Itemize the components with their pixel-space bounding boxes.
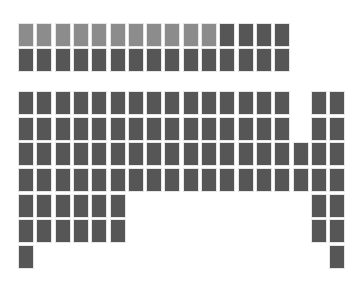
bottom-tile-dark bbox=[329, 168, 345, 192]
top-tile-light bbox=[110, 23, 126, 47]
bottom-tile-dark bbox=[238, 168, 254, 192]
bottom-tile-dark bbox=[164, 168, 180, 192]
bottom-tile-dark bbox=[164, 91, 180, 115]
top-tile-dark bbox=[91, 48, 107, 72]
bottom-tile-dark bbox=[311, 91, 327, 115]
bottom-tile-dark bbox=[311, 168, 327, 192]
bottom-tile-dark bbox=[73, 219, 89, 243]
bottom-tile-dark bbox=[311, 142, 327, 166]
bottom-tile-dark bbox=[110, 194, 126, 218]
bottom-tile-dark bbox=[256, 168, 272, 192]
bottom-tile-dark bbox=[219, 91, 235, 115]
bottom-tile-dark bbox=[55, 117, 71, 141]
top-tile-light bbox=[55, 23, 71, 47]
bottom-tile-dark bbox=[91, 117, 107, 141]
bottom-tile-dark bbox=[329, 219, 345, 243]
top-tile-dark bbox=[201, 48, 217, 72]
bottom-tile-dark bbox=[18, 219, 34, 243]
bottom-tile-dark bbox=[274, 117, 290, 141]
bottom-tile-dark bbox=[311, 117, 327, 141]
bottom-tile-dark bbox=[164, 142, 180, 166]
bottom-tile-dark bbox=[110, 219, 126, 243]
bottom-tile-dark bbox=[91, 142, 107, 166]
bottom-tile-dark bbox=[73, 142, 89, 166]
bottom-tile-dark bbox=[18, 142, 34, 166]
bottom-tile-dark bbox=[329, 194, 345, 218]
bottom-tile-dark bbox=[110, 91, 126, 115]
bottom-tile-dark bbox=[311, 194, 327, 218]
bottom-tile-dark bbox=[91, 219, 107, 243]
top-tile-light bbox=[91, 23, 107, 47]
bottom-tile-dark bbox=[201, 142, 217, 166]
bottom-tile-dark bbox=[256, 91, 272, 115]
top-tile-dark bbox=[73, 48, 89, 72]
bottom-tile-dark bbox=[183, 168, 199, 192]
bottom-tile-dark bbox=[128, 91, 144, 115]
bottom-tile-dark bbox=[73, 117, 89, 141]
bottom-tile-dark bbox=[293, 168, 309, 192]
bottom-tile-dark bbox=[110, 142, 126, 166]
bottom-tile-dark bbox=[238, 117, 254, 141]
top-tile-dark bbox=[238, 48, 254, 72]
bottom-tile-dark bbox=[55, 194, 71, 218]
bottom-tile-dark bbox=[18, 168, 34, 192]
bottom-tile-dark bbox=[274, 168, 290, 192]
bottom-tile-dark bbox=[146, 168, 162, 192]
bottom-tile-dark bbox=[55, 219, 71, 243]
bottom-tile-dark bbox=[73, 91, 89, 115]
bottom-tile-dark bbox=[18, 194, 34, 218]
bottom-tile-dark bbox=[18, 117, 34, 141]
top-tile-light bbox=[18, 23, 34, 47]
bottom-tile-dark bbox=[128, 168, 144, 192]
top-tile-dark bbox=[274, 23, 290, 47]
bottom-tile-dark bbox=[110, 168, 126, 192]
bottom-tile-dark bbox=[256, 117, 272, 141]
bottom-tile-dark bbox=[293, 142, 309, 166]
bottom-tile-dark bbox=[329, 91, 345, 115]
top-tile-dark bbox=[128, 48, 144, 72]
bottom-tile-dark bbox=[274, 142, 290, 166]
bottom-tile-dark bbox=[110, 117, 126, 141]
top-tile-dark bbox=[256, 48, 272, 72]
top-tile-dark bbox=[238, 23, 254, 47]
bottom-tile-dark bbox=[183, 91, 199, 115]
bottom-tile-dark bbox=[36, 194, 52, 218]
bottom-tile-dark bbox=[55, 142, 71, 166]
bottom-tile-dark bbox=[256, 142, 272, 166]
top-tile-light bbox=[164, 23, 180, 47]
bottom-tile-dark bbox=[36, 168, 52, 192]
top-tile-dark bbox=[219, 48, 235, 72]
top-tile-light bbox=[128, 23, 144, 47]
top-tile-light bbox=[201, 23, 217, 47]
top-tile-dark bbox=[55, 48, 71, 72]
bottom-tile-dark bbox=[274, 91, 290, 115]
bottom-tile-dark bbox=[238, 91, 254, 115]
top-tile-light bbox=[183, 23, 199, 47]
bottom-tile-dark bbox=[128, 117, 144, 141]
bottom-tile-dark bbox=[36, 142, 52, 166]
top-tile-light bbox=[73, 23, 89, 47]
bottom-tile-dark bbox=[164, 117, 180, 141]
bottom-tile-dark bbox=[36, 117, 52, 141]
top-tile-dark bbox=[183, 48, 199, 72]
bottom-tile-dark bbox=[36, 91, 52, 115]
bottom-tile-dark bbox=[55, 91, 71, 115]
bottom-tile-dark bbox=[146, 142, 162, 166]
top-tile-dark bbox=[18, 48, 34, 72]
bottom-tile-dark bbox=[238, 142, 254, 166]
bottom-tile-dark bbox=[91, 91, 107, 115]
bottom-tile-dark bbox=[36, 219, 52, 243]
bottom-tile-dark bbox=[73, 168, 89, 192]
bottom-tile-dark bbox=[329, 117, 345, 141]
bottom-tile-dark bbox=[146, 91, 162, 115]
bottom-tile-dark bbox=[311, 219, 327, 243]
bottom-tile-dark bbox=[55, 168, 71, 192]
bottom-tile-dark bbox=[219, 142, 235, 166]
bottom-tile-dark bbox=[183, 142, 199, 166]
top-tile-dark bbox=[146, 48, 162, 72]
bottom-tile-dark bbox=[201, 168, 217, 192]
top-tile-light bbox=[146, 23, 162, 47]
bottom-tile-dark bbox=[219, 117, 235, 141]
bottom-tile-dark bbox=[329, 245, 345, 269]
bottom-tile-dark bbox=[183, 117, 199, 141]
